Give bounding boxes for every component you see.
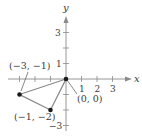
point-neg3-neg1	[17, 92, 22, 97]
leader-line-origin	[67, 80, 77, 94]
y-axis-arrow-icon	[64, 16, 69, 23]
x-axis-arrow-icon	[125, 77, 132, 82]
point-label-neg1-neg2: (−1, −2)	[14, 111, 55, 122]
y-tick-label-1: 1	[56, 59, 62, 69]
coordinate-plane-diagram: x 1 2 3 y 3 1 −3	[0, 0, 142, 136]
point-origin	[64, 77, 69, 82]
leader-line-neg3-neg1	[21, 72, 28, 91]
y-tick-label-neg3: −3	[49, 121, 63, 131]
y-tick-label-3: 3	[55, 28, 61, 38]
point-labels: (0, 0) (−3, −1) (−1, −2)	[9, 60, 103, 122]
x-axis-label: x	[134, 73, 140, 84]
point-label-origin: (0, 0)	[77, 93, 103, 104]
point-label-neg3-neg1: (−3, −1)	[9, 60, 50, 71]
points	[17, 77, 68, 113]
diagram-svg: x 1 2 3 y 3 1 −3	[0, 0, 142, 136]
x-axis: x 1 2 3	[8, 73, 140, 94]
y-axis-label: y	[62, 2, 69, 13]
x-tick-label-3: 3	[110, 84, 116, 94]
triangle	[20, 79, 67, 110]
